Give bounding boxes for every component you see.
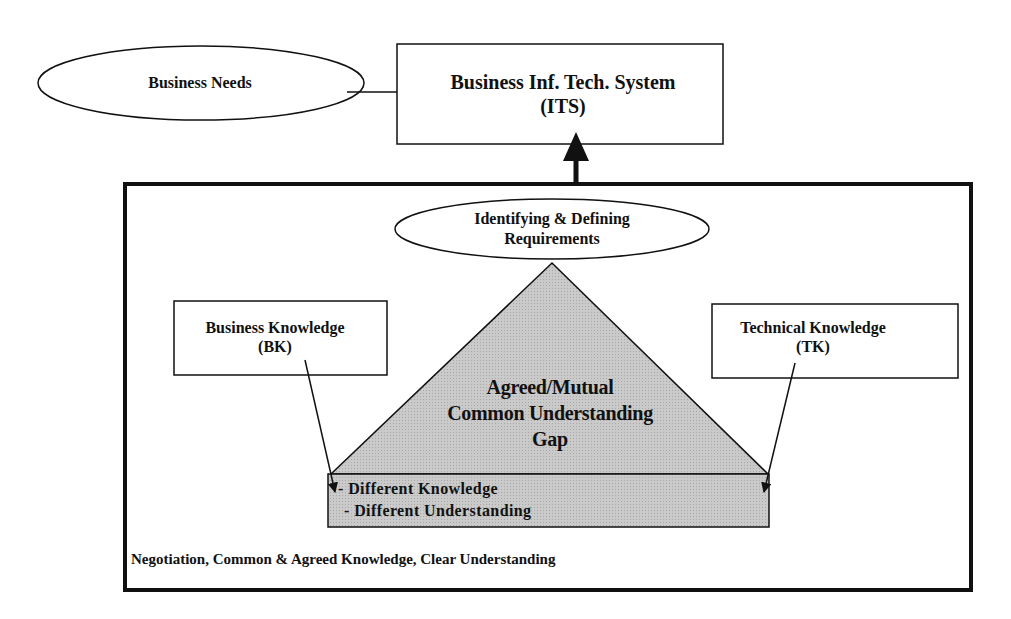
triangle-label: Agreed/Mutual Common Understanding Gap (400, 374, 700, 452)
triangle-line1: Agreed/Mutual (400, 374, 700, 400)
gap-items: - Different Knowledge - Different Unders… (338, 478, 758, 522)
gap-item: - Different Understanding (338, 500, 758, 522)
business-knowledge-label: Business Knowledge (BK) (175, 318, 375, 356)
frame-footer-label: Negotiation, Common & Agreed Knowledge, … (131, 551, 831, 568)
triangle-line2: Common Understanding (400, 400, 700, 426)
tk-title: Technical Knowledge (713, 318, 913, 337)
gap-item: - Different Knowledge (338, 478, 758, 500)
requirements-line1: Identifying & Defining (382, 209, 722, 229)
its-abbrev: (ITS) (398, 94, 728, 118)
its-title: Business Inf. Tech. System (398, 70, 728, 94)
bk-abbrev: (BK) (175, 337, 375, 356)
business-needs-label: Business Needs (40, 74, 360, 92)
tk-arrow (764, 363, 795, 492)
tk-abbrev: (TK) (713, 337, 913, 356)
its-label: Business Inf. Tech. System (ITS) (398, 70, 728, 118)
bk-title: Business Knowledge (175, 318, 375, 337)
triangle-line3: Gap (400, 426, 700, 452)
bk-arrow (305, 360, 335, 492)
technical-knowledge-label: Technical Knowledge (TK) (713, 318, 913, 356)
requirements-label: Identifying & Defining Requirements (382, 209, 722, 249)
requirements-line2: Requirements (382, 229, 722, 249)
